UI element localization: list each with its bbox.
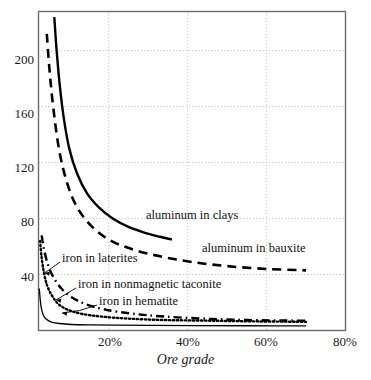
series-label-aluminum-in-bauxite: aluminum in bauxite bbox=[202, 241, 305, 256]
y-tick-label-120: 120 bbox=[4, 160, 34, 176]
plot-area bbox=[0, 0, 371, 380]
y-tick-label-40: 40 bbox=[4, 269, 34, 285]
series-line-aluminum-in-bauxite bbox=[47, 34, 306, 270]
x-tick-label-80: 80% bbox=[322, 334, 368, 350]
x-axis-title: Ore grade bbox=[0, 352, 371, 368]
series-label-iron-in-hematite: iron in hematite bbox=[99, 294, 178, 309]
leader-iron-in-hematite-arrowhead bbox=[62, 312, 68, 316]
x-tick-label-20: 20% bbox=[87, 334, 133, 350]
series-label-aluminum-in-clays: aluminum in clays bbox=[146, 208, 238, 223]
series-label-iron-in-nonmagnetic-taconite: iron in nonmagnetic taconite bbox=[78, 277, 221, 292]
x-tick-label-40: 40% bbox=[165, 334, 211, 350]
x-tick-label-60: 60% bbox=[243, 334, 289, 350]
y-tick-label-200: 200 bbox=[4, 52, 34, 68]
series-label-iron-in-laterites: iron in laterites bbox=[62, 251, 138, 266]
y-tick-label-80: 80 bbox=[4, 214, 34, 230]
leader-iron-in-laterites bbox=[45, 262, 61, 273]
chart-figure: 200 160 120 80 40 20% 40% 60% 80% Ore gr… bbox=[0, 0, 371, 380]
y-tick-label-160: 160 bbox=[4, 106, 34, 122]
